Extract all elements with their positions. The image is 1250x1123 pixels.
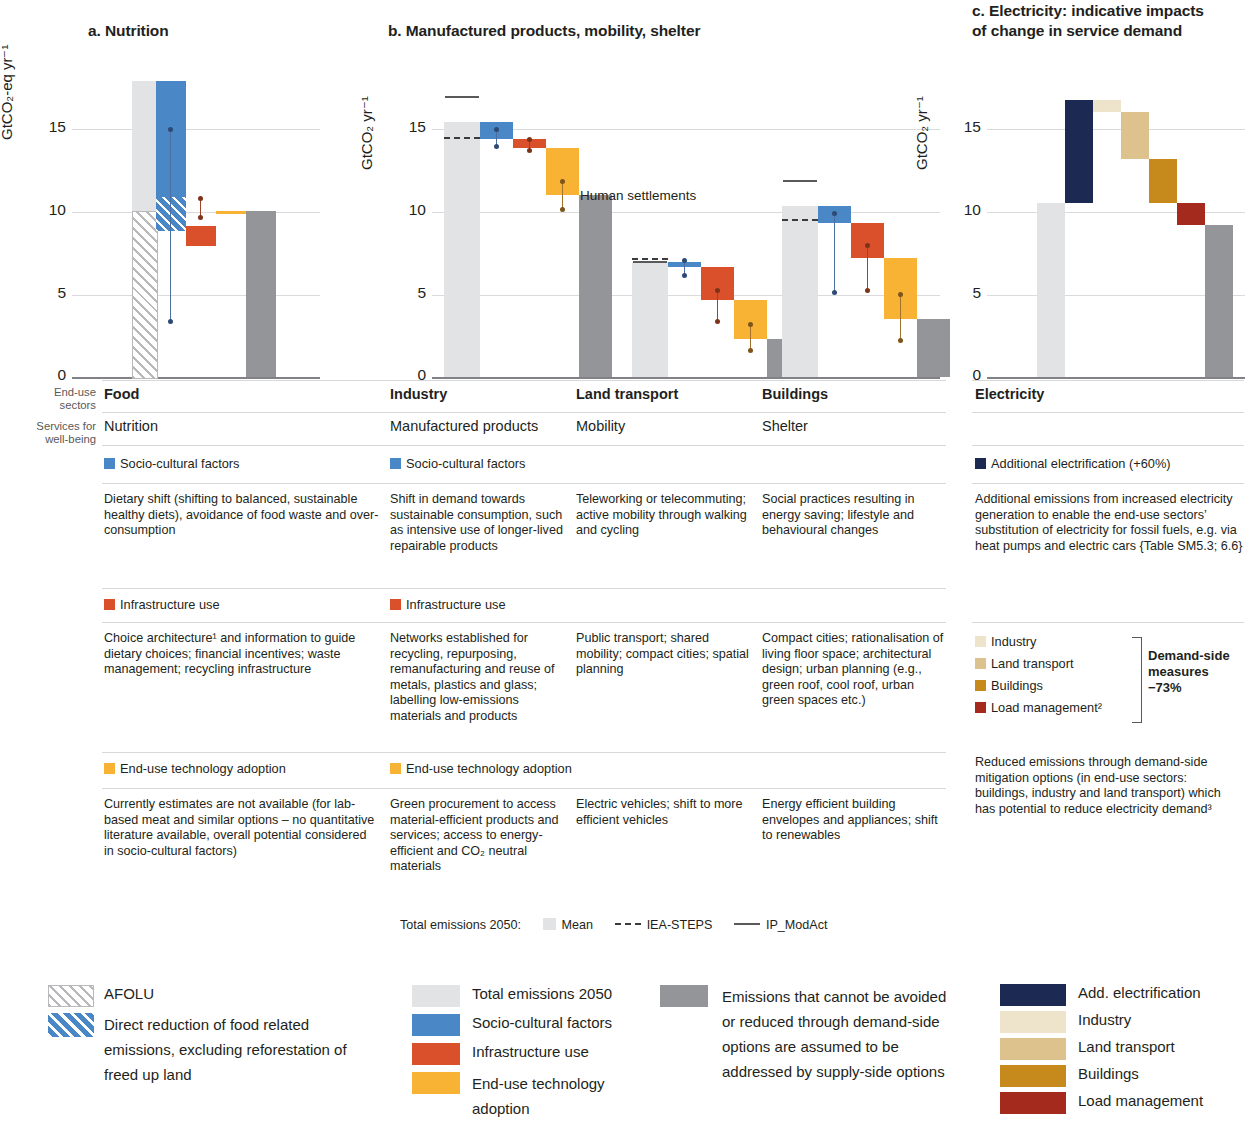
range-line-infra-buildings — [867, 245, 868, 291]
legend-label-total: Total emissions 2050 — [472, 985, 612, 1002]
bar-add-electrification — [1065, 100, 1093, 203]
bar-total-industry — [444, 122, 480, 377]
range-line-socio-food — [170, 130, 171, 322]
bar-socio-food — [156, 81, 186, 197]
figure-root: a. Nutrition b. Manufactured products, m… — [0, 0, 1250, 1123]
c-sublegend-item-load-management: Load management² — [975, 700, 1102, 715]
tick-label-5: 5 — [392, 284, 426, 302]
bar-total-landtransport — [632, 262, 668, 377]
annotation-human-settlements: Human settlements — [580, 188, 696, 203]
bar-residual-electricity — [1205, 225, 1233, 377]
ip-modact-buildings — [783, 180, 817, 182]
gridline-10 — [432, 212, 940, 213]
c-sublegend-item-land-transport: Land transport — [975, 656, 1102, 671]
panel-c-y-axis-label: GtCO₂ yr⁻¹ — [913, 30, 931, 170]
row-label-services-line2: well-being — [0, 433, 96, 446]
range-dot-enduse-landtransport-high — [748, 322, 753, 327]
panel-c-plot: 15 10 5 0 GtCO₂ yr⁻¹ — [975, 60, 1245, 390]
block-text-socio-food: Dietary shift (shifting to balanced, sus… — [104, 492, 379, 539]
range-dot-socio-buildings-low — [832, 290, 837, 295]
range-dot-infra-food-high — [198, 196, 203, 201]
tick-label-10: 10 — [947, 201, 981, 219]
range-dot-enduse-buildings-low — [898, 338, 903, 343]
service-heading-shelter: Shelter — [762, 418, 808, 434]
range-dot-socio-industry-high — [494, 127, 499, 132]
bar-buildings-electricity — [1149, 159, 1177, 203]
range-line-infra-landtransport — [717, 290, 718, 322]
mean-swatch-icon — [543, 918, 556, 930]
swatch-enduse-icon — [104, 763, 115, 774]
legend-swatch-buildings-icon — [1000, 1065, 1066, 1087]
range-line-enduse-landtransport — [750, 324, 751, 351]
iea-steps-line-icon — [615, 923, 641, 925]
bar-residual-food — [246, 211, 276, 377]
legend-swatch-afolu-icon — [48, 985, 94, 1007]
legend-swatch-infra-icon — [412, 1043, 460, 1065]
bar-socio-food-direct-reduction — [156, 197, 186, 231]
legend-swatch-add-electrification-icon — [1000, 984, 1066, 1006]
range-line-socio-buildings — [834, 213, 835, 293]
row-label-end-use-line2: sectors — [0, 399, 96, 412]
gridline-10 — [72, 212, 320, 213]
sector-heading-land-transport: Land transport — [576, 386, 678, 402]
iea-steps-buildings — [782, 219, 818, 221]
legend-swatch-total-icon — [412, 985, 460, 1007]
legend-label-afolu: AFOLU — [104, 986, 154, 1002]
iea-steps-landtransport — [632, 258, 668, 260]
panel-a-plot: 15 10 5 0 GtCO₂-eq yr⁻¹ — [60, 60, 320, 390]
range-dot-socio-buildings-high — [832, 211, 837, 216]
block-text-infra-industry: Networks established for recycling, repu… — [390, 631, 568, 725]
legend-label-socio: Socio-cultural factors — [472, 1014, 612, 1031]
range-dot-socio-food-high — [168, 127, 173, 132]
gridline-15 — [987, 129, 1245, 130]
swatch-load-management-icon — [975, 702, 986, 713]
range-dot-infra-buildings-high — [865, 243, 870, 248]
legend-label-direct-reduction: Direct reduction of food related emissio… — [104, 1012, 384, 1087]
legend-label-add-electrification: Add. electrification — [1078, 984, 1201, 1001]
block-heading-infra-panelb: Infrastructure use — [390, 597, 506, 612]
block-heading-infra-food: Infrastructure use — [104, 597, 220, 612]
gridline-5 — [72, 295, 320, 296]
block-text-enduse-landtransport: Electric vehicles; shift to more efficie… — [576, 797, 754, 828]
tick-label-10: 10 — [32, 201, 66, 219]
panel-b-title: b. Manufactured products, mobility, shel… — [388, 22, 700, 40]
bar-infra-food — [186, 226, 216, 246]
block-text-enduse-buildings: Energy efficient building envelopes and … — [762, 797, 944, 844]
totals-legend-iea: IEA-STEPS — [647, 918, 713, 932]
swatch-add-electrification-icon — [975, 458, 986, 469]
block-text-socio-buildings: Social practices resulting in energy sav… — [762, 492, 944, 539]
legend-label-infra: Infrastructure use — [472, 1043, 589, 1060]
iea-steps-industry — [444, 137, 480, 139]
tick-label-10: 10 — [392, 201, 426, 219]
block-text-socio-landtransport: Teleworking or telecommuting; active mob… — [576, 492, 751, 539]
block-heading-enduse-food: End-use technology adoption — [104, 761, 286, 776]
totals-legend: Total emissions 2050: Mean IEA-STEPS IP_… — [400, 918, 828, 932]
swatch-infra-icon — [104, 599, 115, 610]
block-text-infra-buildings: Compact cities; rationalisation of livin… — [762, 631, 944, 709]
bar-enduse-food — [216, 211, 246, 214]
legend-swatch-enduse-icon — [412, 1072, 460, 1094]
range-dot-infra-industry-low — [527, 148, 532, 153]
tick-label-5: 5 — [947, 284, 981, 302]
range-dot-socio-landtransport-low — [682, 273, 687, 278]
block-text-socio-industry: Shift in demand towards sustainable cons… — [390, 492, 565, 554]
c-sublegend-item-industry: Industry — [975, 634, 1102, 649]
tick-label-0: 0 — [32, 366, 66, 384]
panel-c-title-line2: of change in service demand — [972, 22, 1182, 40]
axis-zero — [72, 377, 320, 379]
block-text-infra-food: Choice architecture¹ and information to … — [104, 631, 379, 678]
legend-swatch-land-transport-icon — [1000, 1038, 1066, 1060]
range-line-enduse-buildings — [900, 294, 901, 341]
block-text-add-electrification: Additional emissions from increased elec… — [975, 492, 1243, 554]
panel-b-y-axis-label: GtCO₂ yr⁻¹ — [358, 30, 376, 170]
range-dot-infra-industry-high — [527, 137, 532, 142]
sector-heading-buildings: Buildings — [762, 386, 828, 402]
block-heading-socio-panelb: Socio-cultural factors — [390, 456, 525, 471]
range-dot-infra-food-low — [198, 215, 203, 220]
legend-label-buildings: Buildings — [1078, 1065, 1139, 1082]
row-label-end-use-sectors: End-use sectors — [0, 386, 96, 412]
gridline-5 — [432, 295, 940, 296]
block-text-enduse-industry: Green procurement to access material-eff… — [390, 797, 568, 875]
range-dot-infra-landtransport-high — [715, 288, 720, 293]
tick-label-0: 0 — [947, 366, 981, 384]
